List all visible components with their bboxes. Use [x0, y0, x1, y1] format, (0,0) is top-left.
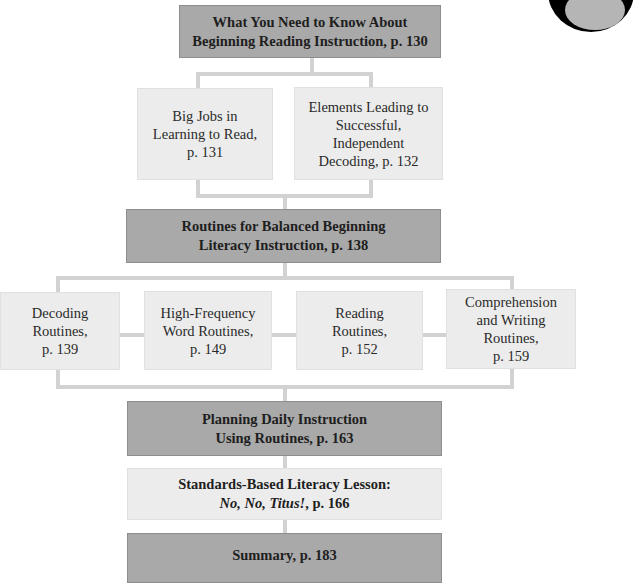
node-reading: Reading Routines, p. 152: [296, 291, 423, 370]
book-title: No, No, Titus!: [220, 495, 306, 511]
node-text: Comprehension: [465, 293, 557, 311]
connector: [283, 385, 287, 401]
node-summary: Summary, p. 183: [127, 533, 442, 583]
node-text: Elements Leading to: [309, 98, 429, 116]
node-text: p. 152: [341, 340, 377, 358]
connector: [56, 276, 514, 280]
node-text: p. 131: [187, 143, 223, 161]
node-text: Routines for Balanced Beginning: [182, 217, 386, 236]
connector: [283, 520, 287, 533]
node-elements: Elements Leading to Successful, Independ…: [294, 87, 443, 180]
page-ref: , p. 166: [305, 495, 349, 511]
node-text: High-Frequency: [160, 304, 255, 322]
node-text: Learning to Read,: [153, 125, 257, 143]
connector: [369, 72, 373, 88]
node-text: Independent: [333, 134, 405, 152]
connector: [196, 72, 200, 88]
connector: [423, 333, 447, 337]
node-big-jobs: Big Jobs in Learning to Read, p. 131: [137, 88, 273, 180]
node-text: Word Routines,: [163, 322, 254, 340]
node-text: p. 159: [493, 347, 529, 365]
node-overview: What You Need to Know About Beginning Re…: [179, 5, 441, 58]
connector: [56, 276, 60, 292]
connector: [120, 333, 144, 337]
node-text: Routines,: [483, 329, 538, 347]
connector: [196, 72, 373, 76]
connector: [510, 276, 514, 290]
node-text: Decoding: [32, 304, 88, 322]
node-text: Routines,: [32, 322, 87, 340]
node-text: Standards-Based Literacy Lesson:: [178, 475, 391, 494]
node-text: Successful,: [336, 116, 402, 134]
node-text: Reading: [335, 304, 383, 322]
node-text: Decoding, p. 132: [319, 152, 419, 170]
node-text: p. 139: [42, 340, 78, 358]
node-text: p. 149: [190, 340, 226, 358]
node-text: What You Need to Know About: [213, 13, 408, 32]
node-text: Planning Daily Instruction: [202, 410, 367, 429]
node-text: Beginning Reading Instruction, p. 130: [192, 32, 427, 51]
connector: [272, 333, 296, 337]
node-planning: Planning Daily Instruction Using Routine…: [127, 401, 442, 456]
connector: [283, 194, 287, 210]
node-text: Literacy Instruction, p. 138: [199, 236, 369, 255]
node-text-line2: No, No, Titus!, p. 166: [220, 494, 350, 513]
node-routines: Routines for Balanced Beginning Literacy…: [126, 209, 441, 263]
node-decoding: Decoding Routines, p. 139: [0, 292, 120, 370]
node-high-frequency: High-Frequency Word Routines, p. 149: [144, 291, 272, 370]
node-text: and Writing: [477, 311, 546, 329]
connector: [283, 456, 287, 468]
node-comprehension: Comprehension and Writing Routines, p. 1…: [446, 289, 576, 369]
node-text: Using Routines, p. 163: [215, 429, 353, 448]
node-text: Routines,: [332, 322, 387, 340]
node-text: Summary, p. 183: [232, 546, 337, 565]
node-standards: Standards-Based Literacy Lesson: No, No,…: [127, 468, 442, 520]
node-text: Big Jobs in: [172, 107, 237, 125]
